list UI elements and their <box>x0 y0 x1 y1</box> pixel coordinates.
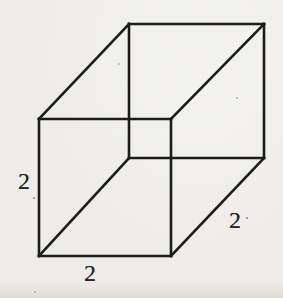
cube-edge-front_top_right--back_top_right <box>171 24 264 119</box>
cube-edge-front_bottom_left--back_bottom_left <box>39 158 129 256</box>
edge-label-right-depth: 2 <box>229 208 241 232</box>
scanned-figure-page: 2 2 2 <box>0 0 283 298</box>
edge-label-left: 2 <box>18 169 30 193</box>
paper-speck <box>246 217 248 219</box>
paper-speck <box>34 291 36 293</box>
paper-speck <box>118 63 120 65</box>
paper-speck <box>236 97 238 99</box>
cube-edge-front_bottom_right--back_bottom_right <box>171 158 264 256</box>
cube-wireframe-figure <box>0 0 283 298</box>
edge-label-bottom: 2 <box>84 261 96 285</box>
paper-speck <box>33 197 35 199</box>
cube-edge-front_top_left--back_top_left <box>39 24 129 119</box>
